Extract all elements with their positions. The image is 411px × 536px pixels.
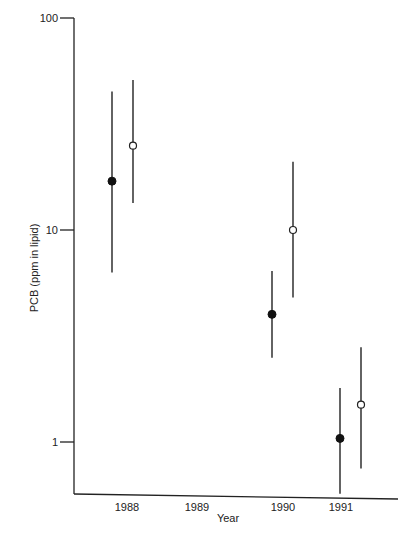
x-axis-title: Year [217, 512, 240, 524]
data-series [108, 80, 365, 494]
open-circle-marker [130, 142, 137, 149]
x-tick-label: 1990 [271, 501, 295, 513]
y-tick-label: 10 [46, 224, 58, 236]
series-filled [108, 92, 344, 494]
pcb-chart: 100101 1988198919901991 PCB (ppm in lipi… [0, 0, 411, 536]
y-tick-label: 1 [52, 436, 58, 448]
x-tick-label: 1991 [329, 501, 353, 513]
open-circle-marker [290, 227, 297, 234]
x-tick-label: 1988 [115, 501, 139, 513]
x-tick-label: 1989 [185, 501, 209, 513]
y-axis-title: PCB (ppm in lipid) [28, 224, 40, 313]
filled-circle-marker [336, 434, 344, 442]
y-tick-label: 100 [40, 12, 58, 24]
y-ticks: 100101 [40, 12, 74, 448]
open-circle-marker [358, 401, 365, 408]
filled-circle-marker [108, 177, 116, 185]
x-axis [74, 494, 398, 499]
series-open [130, 80, 365, 468]
filled-circle-marker [268, 310, 276, 318]
